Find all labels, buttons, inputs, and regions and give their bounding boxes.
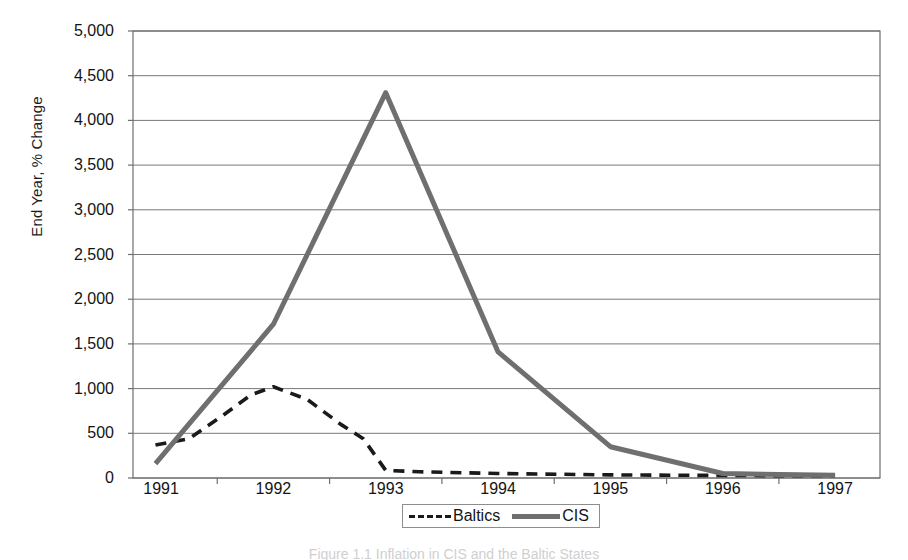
legend-item-baltics[interactable]: Baltics bbox=[409, 505, 504, 527]
x-tick-label: 1997 bbox=[775, 481, 895, 497]
y-tick-label: 1,500 bbox=[18, 336, 114, 352]
x-tick-label: 1996 bbox=[663, 481, 783, 497]
x-tick-label: 1993 bbox=[326, 481, 446, 497]
y-tick-label: 500 bbox=[18, 425, 114, 441]
y-axis-title: End Year, % Change bbox=[28, 47, 45, 287]
x-tick-label: 1991 bbox=[101, 481, 221, 497]
line-chart bbox=[0, 0, 908, 560]
series-line-baltics bbox=[155, 387, 835, 476]
y-tick-label: 2,000 bbox=[18, 291, 114, 307]
series-layer bbox=[155, 93, 835, 476]
legend-item-cis[interactable]: CIS bbox=[504, 505, 593, 527]
chart-legend[interactable]: Baltics CIS bbox=[402, 504, 600, 528]
x-tick-label: 1995 bbox=[550, 481, 670, 497]
x-tick-label: 1994 bbox=[438, 481, 558, 497]
x-tick-label: 1992 bbox=[213, 481, 333, 497]
legend-label-baltics: Baltics bbox=[451, 508, 504, 524]
figure-caption: Figure 1.1 Inflation in CIS and the Balt… bbox=[0, 546, 908, 560]
solid-line-swatch-icon bbox=[512, 514, 560, 519]
y-tick-label: 5,000 bbox=[18, 23, 114, 39]
gridlines bbox=[128, 31, 880, 478]
y-tick-label: 1,000 bbox=[18, 381, 114, 397]
series-line-cis bbox=[155, 93, 835, 476]
dashed-line-swatch-icon bbox=[409, 515, 451, 518]
figure-container: 05001,0001,5002,0002,5003,0003,5004,0004… bbox=[0, 0, 908, 560]
legend-label-cis: CIS bbox=[560, 508, 593, 524]
y-tick-label: 0 bbox=[18, 470, 114, 486]
